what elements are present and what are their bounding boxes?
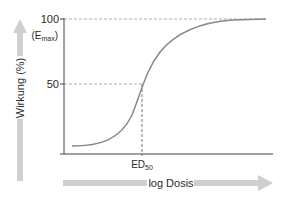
- y-tick-label-100: 100: [41, 13, 59, 25]
- x-axis-label: log Dosis: [148, 177, 194, 189]
- y-axis-label: Wirkung (%): [14, 58, 26, 119]
- dose-response-curve: [72, 19, 266, 146]
- x-annotation-ed50: ED50: [131, 159, 153, 171]
- dose-response-chart: Wirkung (%) log Dosis 100 (Emax) 50 ED50: [0, 0, 289, 199]
- y-annotation-emax: (Emax): [31, 30, 58, 42]
- y-tick-label-50: 50: [47, 78, 59, 90]
